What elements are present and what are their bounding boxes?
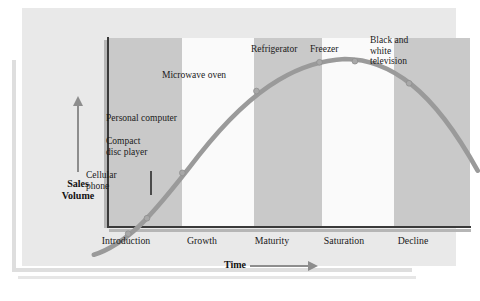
annotation-compact-disc-player: Compact disc player bbox=[106, 136, 168, 157]
stage-label-introduction: Introduction bbox=[85, 235, 167, 246]
x-axis-arrowhead-icon bbox=[308, 261, 318, 271]
y-axis-title-line2: Volume bbox=[62, 190, 94, 201]
annotation-personal-computer: Personal computer bbox=[106, 113, 177, 124]
annotation-bw-tv-line1: Black and bbox=[370, 35, 408, 45]
annotation-bw-tv-line2: white bbox=[370, 46, 391, 56]
y-axis-title-line1: Sales bbox=[67, 178, 89, 189]
stage-band-growth bbox=[182, 38, 254, 226]
page-shadow-bottom-secondary bbox=[18, 276, 416, 279]
annotation-compact-disc-line2: disc player bbox=[106, 147, 147, 157]
y-axis-title: Sales Volume bbox=[44, 178, 112, 201]
stage-label-maturity: Maturity bbox=[236, 235, 308, 246]
annotation-compact-disc-line1: Compact bbox=[106, 136, 140, 146]
x-axis-title: Time bbox=[200, 259, 246, 271]
annotation-black-white-television: Black and white television bbox=[370, 35, 428, 67]
annotation-microwave-oven: Microwave oven bbox=[162, 70, 226, 81]
stage-label-saturation: Saturation bbox=[305, 235, 383, 246]
stage-label-growth: Growth bbox=[167, 235, 237, 246]
stage-label-decline: Decline bbox=[379, 235, 447, 246]
page-shadow-left bbox=[12, 60, 16, 272]
x-axis-shadow bbox=[109, 229, 471, 232]
stage-band-maturity bbox=[254, 38, 322, 226]
annotation-bw-tv-line3: television bbox=[370, 56, 407, 66]
annotation-refrigerator: Refrigerator bbox=[251, 44, 297, 55]
stage-band-introduction bbox=[109, 38, 182, 226]
product-life-cycle-figure: Cellular phone Compact disc player Perso… bbox=[0, 0, 480, 301]
x-axis-line bbox=[107, 226, 471, 228]
figure-card: Cellular phone Compact disc player Perso… bbox=[22, 8, 456, 266]
compact-disc-leader-line bbox=[150, 171, 152, 195]
annotation-freezer: Freezer bbox=[310, 44, 338, 55]
y-axis-arrow-shaft bbox=[77, 104, 79, 172]
x-axis-arrow-shaft bbox=[250, 265, 310, 267]
